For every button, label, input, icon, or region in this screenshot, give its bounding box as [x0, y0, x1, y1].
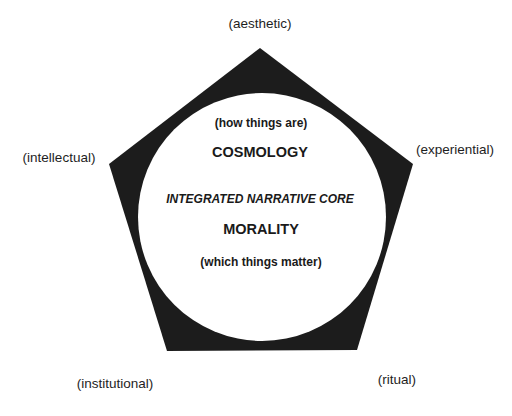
label-ritual: (ritual) [378, 373, 416, 387]
label-experiential: (experiential) [416, 143, 494, 157]
core-circle [138, 93, 386, 341]
morality-heading: MORALITY [223, 222, 299, 237]
label-institutional: (institutional) [77, 377, 154, 391]
label-intellectual: (intellectual) [23, 151, 96, 165]
pentagon-diagram [0, 0, 512, 416]
cosmology-heading: COSMOLOGY [212, 145, 308, 160]
label-aesthetic: (aesthetic) [228, 17, 291, 31]
cosmology-subtitle: (how things are) [215, 117, 308, 129]
morality-subtitle: (which things matter) [200, 256, 321, 268]
integrated-narrative-core: INTEGRATED NARRATIVE CORE [166, 193, 354, 205]
